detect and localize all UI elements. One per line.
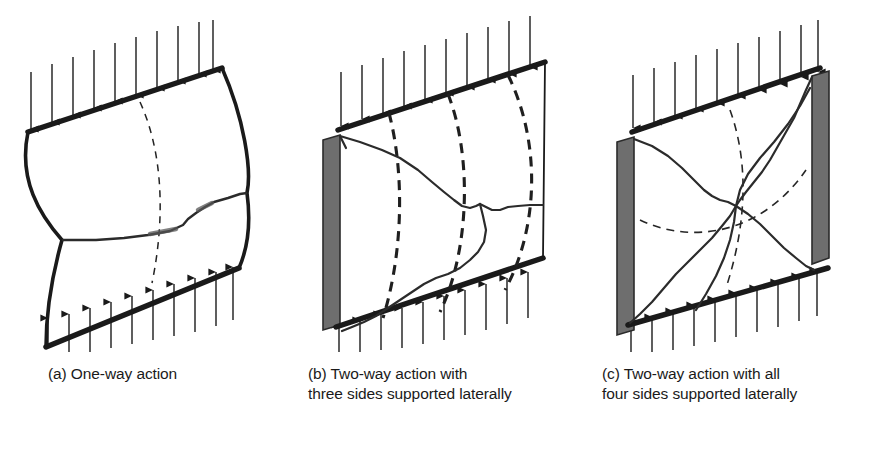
panel-a-top-support-edge [28, 68, 222, 132]
panel-a-left-free-edge [26, 132, 62, 347]
caption-panel-b-line2: three sides supported laterally [308, 385, 512, 402]
panel-b-crack-horizontal-branch [480, 204, 543, 210]
figure-container: (a) One-way action (b) Two-way action wi… [0, 0, 887, 452]
panel-a-crack-opening-1 [150, 229, 176, 234]
panel-c-crack-pattern [630, 77, 814, 323]
panel-b-outline [336, 62, 545, 327]
caption-panel-c-line1: (c) Two-way action with all [602, 365, 780, 382]
panel-a-crack-opening-2 [198, 203, 212, 210]
panel-c-bottom-reaction-arrows [631, 270, 817, 352]
panel-c-top-load-arrows [633, 20, 818, 128]
panel-b-crack-upper-diagonal [340, 136, 480, 208]
panel-a-right-free-edge [222, 68, 249, 268]
panel-c-left-lateral-support [617, 137, 634, 335]
panel-b-bottom-reaction-arrows [339, 272, 528, 352]
panel-b-arch-line-1 [383, 113, 400, 318]
caption-panel-b-line1: (b) Two-way action with [308, 365, 467, 382]
captions: (a) One-way action (b) Two-way action wi… [48, 365, 798, 402]
panel-a-top-load-arrows [31, 20, 213, 129]
caption-panel-a-line1: (a) One-way action [48, 365, 177, 382]
panel-b-top-load-arrows [341, 16, 530, 126]
panel-a-bottom-support-edge [46, 268, 239, 347]
panel-c-right-lateral-support [812, 71, 829, 264]
panel-a-arching-thrust-line [140, 102, 160, 283]
arching-action-figure: (a) One-way action (b) Two-way action wi… [0, 0, 887, 452]
panel-b-right-free-edge [543, 62, 545, 258]
caption-panel-c-line2: four sides supported laterally [602, 385, 798, 402]
panel-b-arch-line-3 [505, 75, 532, 290]
panel-b-crack-pattern [340, 136, 543, 331]
panel-b-top-support-edge [338, 62, 545, 130]
panel-b-two-way-three-sides [323, 16, 545, 352]
panel-b-arching-thrust-lines [383, 75, 532, 318]
panel-b-arch-line-2 [440, 94, 464, 312]
panel-c-crack-secondary-upper [736, 88, 810, 206]
panel-c-crack-to-bottom-right-corner [736, 206, 814, 270]
panel-c-two-way-four-sides [617, 20, 829, 352]
panel-b-left-lateral-support [323, 135, 340, 330]
panel-a-one-way-action [26, 20, 249, 352]
panel-c-crack-to-top-left-corner [634, 139, 736, 206]
panel-b-bottom-support-edge [336, 258, 543, 327]
